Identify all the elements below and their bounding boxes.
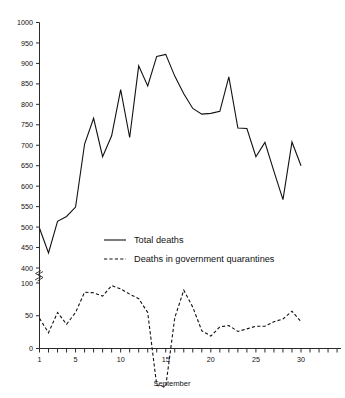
y-axis-tick-label: 850 (21, 79, 33, 88)
y-axis-tick-label: 0 (29, 344, 33, 353)
y-axis-tick-label: 700 (21, 141, 33, 150)
y-axis-tick-label: 100 (21, 279, 33, 288)
legend-label-quarantine-deaths: Deaths in government quarantines (134, 254, 275, 264)
legend-label-total-deaths: Total deaths (134, 235, 184, 245)
y-axis-tick-label: 950 (21, 39, 33, 48)
chart-container: 0501004004505005506006507007508008509009… (0, 0, 345, 398)
y-axis-tick-label: 650 (21, 161, 33, 170)
x-axis-tick-label: 25 (252, 355, 260, 364)
y-axis-tick-label: 550 (21, 202, 33, 211)
y-axis-tick-label: 450 (21, 243, 33, 252)
y-axis-tick-label: 750 (21, 120, 33, 129)
y-axis-tick-label: 1000 (17, 18, 33, 27)
x-axis-title: September (153, 379, 191, 388)
y-axis-tick-label: 800 (21, 100, 33, 109)
x-axis-tick-label: 30 (297, 355, 305, 364)
x-axis-tick-label: 10 (117, 355, 125, 364)
y-axis-tick-label: 400 (21, 264, 33, 273)
y-axis-tick-label: 500 (21, 223, 33, 232)
y-axis-tick-label: 900 (21, 59, 33, 68)
line-chart: 0501004004505005506006507007508008509009… (0, 0, 345, 398)
x-axis-tick-label: 5 (74, 355, 78, 364)
y-axis-tick-label: 50 (25, 311, 33, 320)
x-axis-tick-label: 20 (207, 355, 215, 364)
chart-background (0, 0, 345, 398)
y-axis-tick-label: 600 (21, 182, 33, 191)
x-axis-tick-label: 1 (38, 355, 42, 364)
